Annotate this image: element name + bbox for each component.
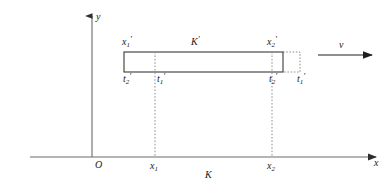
label-x2-prime: x2′ [267, 37, 277, 47]
label-x1-prime: x1′ [122, 37, 132, 47]
x-axis-label: x [374, 158, 378, 168]
label-k-prime-frame: K′ [191, 37, 200, 47]
origin-label: O [95, 160, 102, 170]
label-x2-axis-tick: x2 [267, 161, 275, 171]
label-t2-prime-left: t2′ [123, 74, 131, 84]
diagram-svg [0, 0, 389, 190]
label-k-rest-frame: K [205, 170, 212, 180]
label-t1-prime-right: t1′ [297, 74, 305, 84]
label-x1-axis-tick: x1 [150, 161, 158, 171]
label-t1-prime-left: t1′ [157, 74, 165, 84]
y-axis-label: y [96, 12, 100, 22]
dotted-extension-rect [283, 52, 300, 72]
rod-rectangle [124, 52, 283, 72]
label-t2-prime-right: t2′ [269, 74, 277, 84]
figure-canvas: y x O x1′ K′ x2′ t2′ t1′ t2′ t1′ x1 x2 [0, 0, 389, 190]
label-velocity: v [339, 40, 343, 50]
